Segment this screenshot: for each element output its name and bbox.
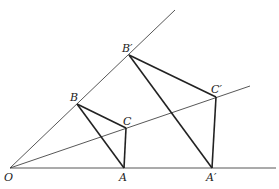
label-A: A xyxy=(118,171,127,184)
triangle-ABC xyxy=(77,104,126,168)
homothety-diagram: O A A′ B B′ C C′ xyxy=(0,0,279,189)
segment-C-prime-A-prime xyxy=(212,97,216,168)
segment-BC xyxy=(77,104,126,128)
label-A-prime: A′ xyxy=(205,171,217,184)
triangle-A-prime-B-prime-C-prime xyxy=(129,55,216,168)
label-B: B xyxy=(69,91,78,104)
segment-CA xyxy=(124,128,126,168)
label-O: O xyxy=(4,171,13,184)
label-C-prime: C′ xyxy=(211,83,222,96)
label-C: C xyxy=(123,115,132,128)
segment-B-prime-A-prime xyxy=(129,55,212,168)
label-B-prime: B′ xyxy=(121,42,133,55)
ray-OB xyxy=(10,10,175,168)
segment-B-prime-C-prime xyxy=(129,55,216,97)
segment-BA xyxy=(77,104,124,168)
